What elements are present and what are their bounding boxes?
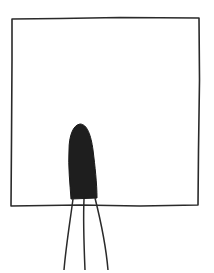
background: [0, 0, 214, 273]
sketch-canvas: [0, 0, 214, 273]
